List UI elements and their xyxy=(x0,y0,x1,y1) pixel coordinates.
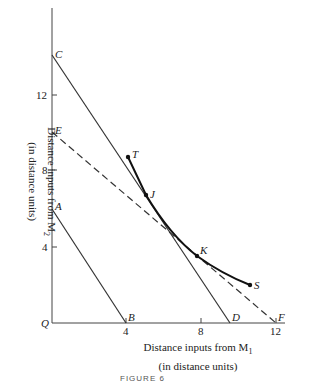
point-k xyxy=(195,254,199,258)
label-j: J xyxy=(150,188,156,200)
label-s: S xyxy=(254,279,260,291)
y-axis-title-sub: 2 xyxy=(42,232,51,236)
label-f: F xyxy=(277,311,285,323)
label-k: K xyxy=(199,244,208,256)
label-t: T xyxy=(132,148,139,160)
point-j xyxy=(144,193,148,197)
isocost-line-ab xyxy=(52,209,126,323)
x-tick-label-4: 4 xyxy=(123,325,129,337)
x-axis-title: Distance inputs from M1 (in distance uni… xyxy=(108,340,288,373)
label-b: B xyxy=(128,311,135,323)
x-axis-title-sub: 1 xyxy=(248,347,252,356)
label-c: C xyxy=(55,48,63,60)
label-q: Q xyxy=(41,317,49,329)
label-d: D xyxy=(231,311,240,323)
x-tick-label-12: 12 xyxy=(270,325,281,337)
isoquant-curve-ts xyxy=(128,157,250,285)
figure-caption: FIGURE 6 xyxy=(120,374,165,382)
y-axis-title: Distance inputs from M2 (in distance uni… xyxy=(25,82,58,282)
y-axis-title-line1: Distance inputs from M xyxy=(46,127,58,232)
x-tick-label-8: 8 xyxy=(198,325,204,337)
x-axis-title-line2: (in distance units) xyxy=(108,359,288,373)
y-axis-title-line2: (in distance units) xyxy=(25,82,39,282)
isocost-line-ef-dashed xyxy=(52,132,276,323)
point-t xyxy=(126,155,130,159)
x-axis-title-line1: Distance inputs from M xyxy=(144,341,249,353)
point-s xyxy=(248,283,252,287)
isocost-line-cd xyxy=(52,55,230,323)
